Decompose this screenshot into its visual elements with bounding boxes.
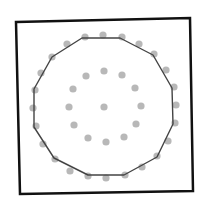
inner-ring-point [82, 72, 89, 79]
outer-ring-point [66, 167, 73, 174]
inner-ring-point [102, 138, 109, 145]
outer-ring-point [172, 101, 179, 108]
outer-ring-point [29, 104, 36, 111]
inner-ring-point [131, 84, 138, 91]
center-point [100, 103, 107, 110]
convex-hull-diagram [0, 0, 200, 201]
inner-ring-point [120, 133, 127, 140]
inner-ring-point [65, 103, 72, 110]
inner-ring-point [69, 85, 76, 92]
inner-ring-point [100, 67, 107, 74]
inner-ring-point [132, 120, 139, 127]
inner-ring-point [137, 102, 144, 109]
inner-ring-point [84, 134, 91, 141]
inner-ring-point [70, 121, 77, 128]
outer-ring-point [81, 33, 88, 40]
background [0, 0, 200, 201]
inner-ring-point [118, 71, 125, 78]
